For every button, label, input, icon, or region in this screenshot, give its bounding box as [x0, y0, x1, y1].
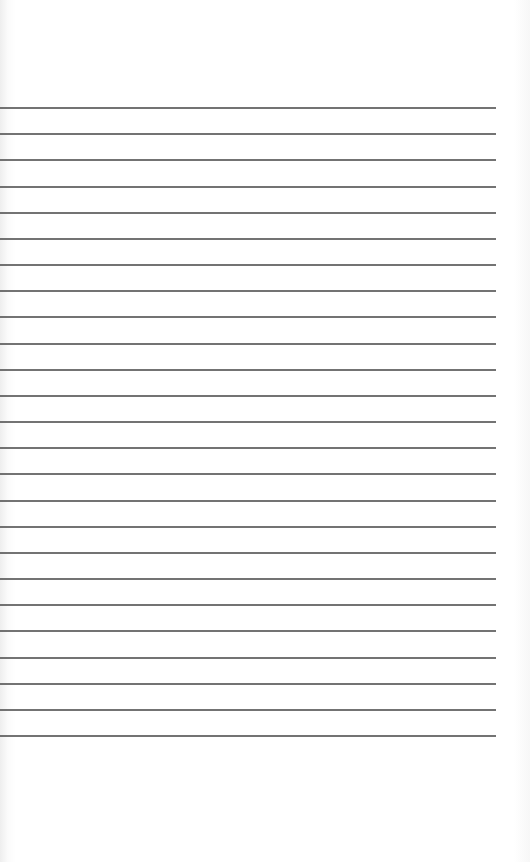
ruled-line: [0, 395, 496, 397]
ruled-line: [0, 526, 496, 528]
ruled-line: [0, 107, 496, 109]
ruled-line: [0, 212, 496, 214]
ruled-line: [0, 500, 496, 502]
ruled-line: [0, 604, 496, 606]
ruled-line: [0, 264, 496, 266]
ruled-line: [0, 683, 496, 685]
ruled-line: [0, 421, 496, 423]
lined-paper-page: [0, 0, 530, 862]
ruled-line: [0, 133, 496, 135]
ruled-line: [0, 186, 496, 188]
ruled-line: [0, 709, 496, 711]
ruled-line: [0, 159, 496, 161]
ruled-line: [0, 578, 496, 580]
ruled-line: [0, 238, 496, 240]
ruled-line: [0, 735, 496, 737]
ruled-line: [0, 552, 496, 554]
ruled-line: [0, 447, 496, 449]
ruled-line: [0, 369, 496, 371]
ruled-line: [0, 630, 496, 632]
ruled-line: [0, 657, 496, 659]
ruled-line: [0, 316, 496, 318]
ruled-line: [0, 473, 496, 475]
ruled-line: [0, 290, 496, 292]
ruled-line: [0, 343, 496, 345]
